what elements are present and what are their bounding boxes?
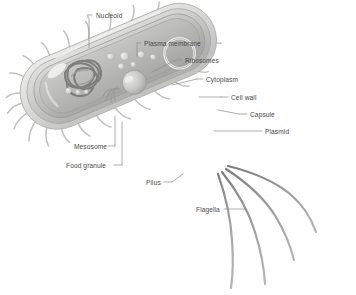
label-plasma-membrane: Plasma membrane <box>144 40 201 48</box>
label-capsule: Capsule <box>250 111 275 119</box>
label-plasmid: Plasmid <box>265 128 289 136</box>
flagella-group <box>218 166 316 288</box>
bacterial-cell-diagram: Nucleoid Plasma membrane Ribosomes Cytop… <box>0 0 356 295</box>
label-nucleoid: Nucleoid <box>96 12 122 20</box>
label-cytoplasm: Cytoplasm <box>206 76 238 84</box>
label-food-granule: Food granule <box>66 162 106 170</box>
label-cell-wall: Cell wall <box>231 94 256 102</box>
label-ribosomes: Ribosomes <box>185 57 219 65</box>
label-pilus: Pilus <box>146 179 161 187</box>
label-mesosome: Mesosome <box>74 143 107 151</box>
label-flagella: Flagella <box>196 206 220 214</box>
